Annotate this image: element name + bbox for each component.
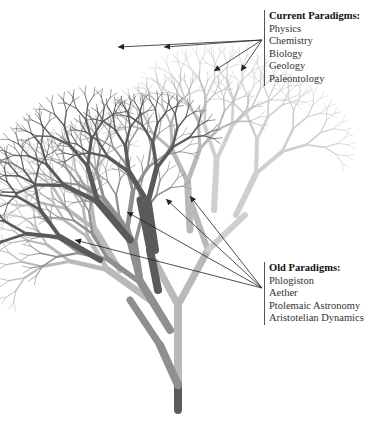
- current-paradigm-item: Paleontology: [269, 73, 360, 86]
- current-paradigms-label: Current Paradigms: Physics Chemistry Bio…: [264, 10, 360, 86]
- current-paradigm-item: Chemistry: [269, 35, 360, 48]
- old-paradigm-item: Phlogiston: [269, 275, 364, 288]
- fractal-trees: [0, 45, 355, 410]
- old-paradigm-item: Aether: [269, 287, 364, 300]
- old-paradigm-item: Ptolemaic Astronomy: [269, 300, 364, 313]
- old-paradigm-item: Aristotelian Dynamics: [269, 312, 364, 325]
- old-paradigms-title: Old Paradigms:: [269, 262, 364, 275]
- current-paradigm-item: Geology: [269, 60, 360, 73]
- current-paradigm-item: Physics: [269, 23, 360, 36]
- current-paradigms-title: Current Paradigms:: [269, 10, 360, 23]
- current-paradigm-item: Biology: [269, 48, 360, 61]
- old-paradigms-label: Old Paradigms: Phlogiston Aether Ptolema…: [264, 262, 364, 325]
